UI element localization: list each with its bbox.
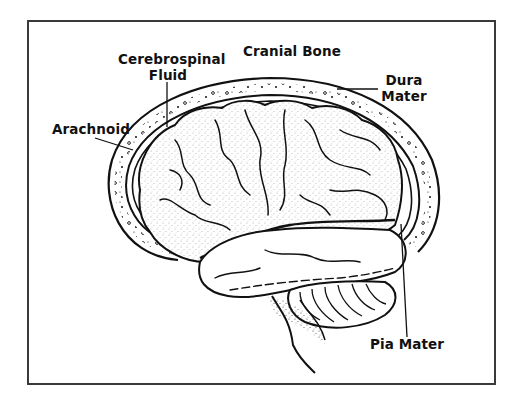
label-dura-mater-line2: Mater xyxy=(381,88,427,104)
label-cerebrospinal-fluid-line1: Cerebrospinal xyxy=(118,51,218,67)
pia-mater-leader-line xyxy=(401,224,407,337)
label-cerebrospinal-fluid: Cerebrospinal Fluid xyxy=(118,51,218,83)
label-dura-mater: Dura Mater xyxy=(381,72,427,104)
label-pia-mater: Pia Mater xyxy=(370,336,444,352)
label-arachnoid: Arachnoid xyxy=(52,121,130,137)
label-dura-mater-line1: Dura xyxy=(381,72,427,88)
label-cerebrospinal-fluid-line2: Fluid xyxy=(118,67,218,83)
label-cranial-bone: Cranial Bone xyxy=(243,43,341,59)
